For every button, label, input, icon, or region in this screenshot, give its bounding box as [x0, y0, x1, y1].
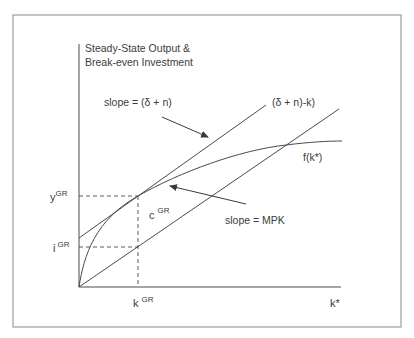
i-gr-label: iGR: [53, 240, 70, 254]
breakeven-line: [79, 109, 339, 287]
breakeven-line-label: (δ + n)-k): [272, 96, 315, 108]
x-axis-label: k*: [330, 297, 341, 309]
k-gr-label: kGR: [133, 295, 154, 309]
y-axis-title-line1: Steady-State Output &: [85, 42, 190, 54]
slope-tangent-arrow: [162, 117, 208, 137]
production-label: f(k*): [303, 151, 322, 163]
slope-mpk-label: slope = MPK: [225, 214, 285, 226]
c-gr-label: cGR: [149, 206, 170, 221]
golden-rule-diagram: Steady-State Output & Break-even Investm…: [0, 0, 414, 338]
y-axis-title-line2: Break-even Investment: [85, 56, 193, 68]
y-gr-label: yGR: [50, 189, 68, 203]
slope-mpk-arrow: [170, 186, 246, 204]
figure-frame: [13, 15, 401, 327]
slope-tangent-label: slope = (δ + n): [104, 96, 172, 108]
